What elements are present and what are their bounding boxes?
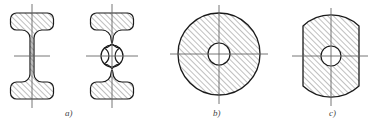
- figure-label-b: b): [213, 108, 221, 118]
- figure-circular-disc-bored: [170, 5, 268, 104]
- figure-label-c: c): [329, 108, 336, 118]
- technical-drawing-plate: [0, 0, 369, 132]
- figure-double-flatted-disc-bored: [292, 8, 368, 106]
- hatch-fill-circular-disc: [174, 9, 266, 101]
- figure-label-a: a): [65, 108, 73, 118]
- figure-i-beam-bored: [84, 4, 142, 108]
- figure-i-beam-solid: [4, 4, 62, 108]
